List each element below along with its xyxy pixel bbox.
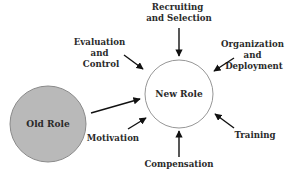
- factor-motivation: Motivation: [87, 118, 146, 143]
- factor-evaluation-label: Evaluation and Control: [74, 37, 128, 69]
- factor-evaluation: Evaluation and Control: [74, 37, 143, 69]
- old-role-node: Old Role: [10, 86, 86, 162]
- factor-training-label: Training: [235, 130, 276, 140]
- factor-training: Training: [215, 114, 275, 140]
- factor-recruiting: Recruiting and Selection: [146, 2, 212, 56]
- arrow-up-right-icon: [128, 118, 146, 129]
- transition-arrow-icon: [91, 99, 140, 113]
- factor-motivation-label: Motivation: [87, 133, 140, 143]
- new-role-node: New Role: [145, 60, 213, 128]
- role-transition-diagram: Old Role New Role Recruiting and Selecti…: [0, 0, 288, 175]
- old-role-label: Old Role: [26, 119, 70, 129]
- factor-compensation-label: Compensation: [144, 159, 214, 169]
- factor-organization: Organization and Deployment: [214, 39, 287, 71]
- new-role-label: New Role: [155, 89, 203, 99]
- arrow-up-left-icon: [215, 114, 234, 128]
- factor-recruiting-label: Recruiting and Selection: [146, 2, 212, 23]
- arrow-down-right-icon: [124, 55, 143, 69]
- factor-organization-label: Organization and Deployment: [221, 39, 287, 71]
- factor-compensation: Compensation: [144, 131, 214, 169]
